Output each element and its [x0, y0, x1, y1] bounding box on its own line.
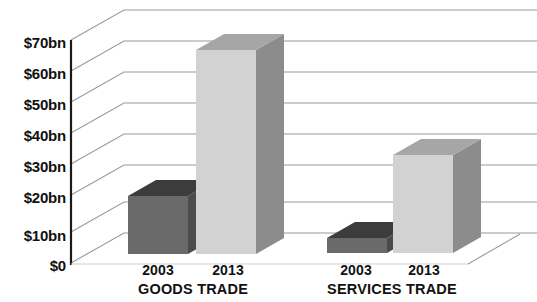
y-tick-label-40: $40bn — [24, 127, 66, 144]
y-tick-label-50: $50bn — [24, 96, 66, 113]
group-label-goods-trade: GOODS TRADE — [113, 281, 273, 297]
gridline-40 — [71, 103, 537, 133]
y-tick-label-10: $10bn — [24, 227, 66, 244]
bar-goods-2013-side — [256, 34, 284, 254]
bar-chart-3d: $70bn $60bn $50bn $40bn $30bn $20bn $10b… — [0, 0, 537, 302]
x-tick-services-2003: 2003 — [326, 262, 386, 278]
y-tick-label-20: $20bn — [24, 189, 66, 206]
y-tick-label-60: $60bn — [24, 65, 66, 82]
bar-goods-2013-front — [196, 50, 256, 254]
x-tick-goods-2003: 2003 — [128, 262, 188, 278]
bar-goods-2013[interactable] — [196, 34, 284, 254]
x-tick-goods-2013: 2013 — [198, 262, 258, 278]
bar-services-2013[interactable] — [393, 139, 481, 253]
bar-goods-2003-front — [128, 196, 188, 254]
x-tick-services-2013: 2013 — [394, 262, 454, 278]
gridline-70 — [71, 10, 537, 40]
y-tick-label-70: $70bn — [24, 34, 66, 51]
y-tick-label-30: $30bn — [24, 158, 66, 175]
bar-services-2013-front — [393, 155, 453, 253]
bar-services-2003-front — [327, 238, 387, 253]
y-tick-label-0: $0 — [50, 257, 66, 274]
gridline-50 — [71, 72, 537, 102]
gridline-60 — [71, 41, 537, 71]
chart-canvas — [0, 0, 537, 302]
group-label-services-trade: SERVICES TRADE — [302, 281, 482, 297]
bar-services-2013-side — [453, 139, 481, 253]
